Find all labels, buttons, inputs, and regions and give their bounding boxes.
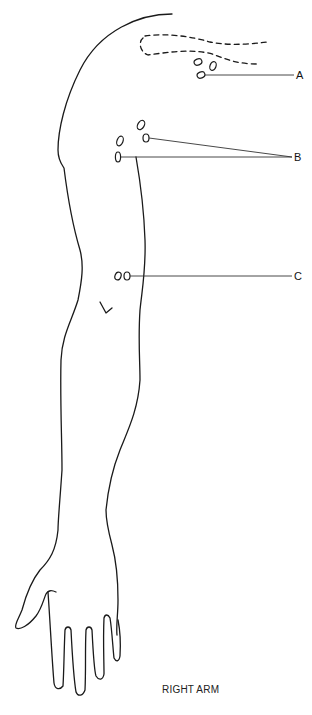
site-b-markers	[115, 119, 292, 162]
right-arm-diagram: A B C RIGHT ARM	[0, 0, 312, 715]
arm-drawing	[0, 0, 312, 715]
label-b: B	[294, 152, 301, 163]
site-a-markers	[193, 58, 294, 79]
label-c: C	[294, 271, 302, 282]
label-a: A	[296, 70, 303, 81]
dashed-region	[140, 35, 268, 64]
hand-fingers	[48, 592, 120, 695]
diagram-title: RIGHT ARM	[162, 684, 219, 695]
arm-outline-left	[15, 14, 172, 629]
small-mark	[100, 302, 112, 313]
arm-outline-right	[106, 157, 145, 635]
site-c-markers	[114, 271, 292, 281]
